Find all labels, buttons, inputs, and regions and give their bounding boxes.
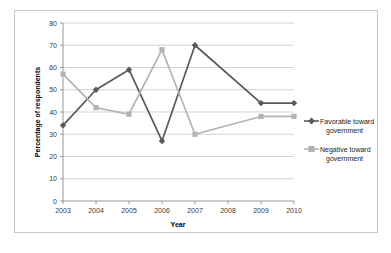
x-axis-title: Year: [171, 221, 186, 228]
data-point-marker[interactable]: [93, 105, 98, 110]
y-tick-label: 50: [49, 86, 57, 93]
x-tick-label: 2008: [220, 207, 236, 214]
y-tick-label: 10: [49, 175, 57, 182]
line-chart-svg: 01020304050607080 2003200420052006200720…: [15, 11, 379, 234]
legend-item-favorable[interactable]: Favorable toward government: [304, 118, 374, 136]
data-point-marker[interactable]: [159, 47, 164, 52]
x-tick-label: 2007: [187, 207, 203, 214]
diamond-marker-icon: [308, 118, 315, 125]
data-point-marker[interactable]: [291, 114, 296, 119]
x-axis-ticks: 20032004200520062007200820092010: [55, 201, 302, 214]
chart-legend: Favorable toward government Negative tow…: [304, 118, 374, 164]
x-tick-label: 2010: [286, 207, 302, 214]
data-point-marker[interactable]: [291, 100, 297, 106]
y-tick-label: 40: [49, 109, 57, 116]
square-marker-icon: [308, 146, 314, 152]
data-point-marker[interactable]: [192, 132, 197, 137]
legend-label-favorable-line2: government: [326, 127, 363, 135]
data-point-marker[interactable]: [126, 112, 131, 117]
x-tick-label: 2003: [55, 207, 71, 214]
y-tick-label: 60: [49, 64, 57, 71]
y-tick-label: 30: [49, 131, 57, 138]
data-point-marker[interactable]: [258, 114, 263, 119]
x-tick-label: 2004: [88, 207, 104, 214]
y-axis-ticks: 01020304050607080: [49, 20, 63, 205]
data-series-group: [60, 42, 297, 144]
data-point-marker[interactable]: [159, 138, 165, 144]
x-tick-label: 2005: [121, 207, 137, 214]
y-tick-label: 70: [49, 42, 57, 49]
legend-label-negative-line2: government: [326, 155, 363, 163]
series-line-square: [63, 50, 294, 135]
y-tick-label: 80: [49, 20, 57, 27]
x-tick-label: 2006: [154, 207, 170, 214]
data-point-marker[interactable]: [60, 72, 65, 77]
chart-container: 01020304050607080 2003200420052006200720…: [14, 10, 378, 233]
legend-label-favorable-line1: Favorable toward: [320, 118, 374, 125]
y-tick-label: 20: [49, 153, 57, 160]
y-tick-label: 0: [53, 198, 57, 205]
x-tick-label: 2009: [253, 207, 269, 214]
legend-label-negative-line1: Negative toward: [320, 146, 371, 154]
legend-item-negative[interactable]: Negative toward government: [304, 146, 371, 164]
plot-area: 01020304050607080 2003200420052006200720…: [15, 11, 379, 234]
y-axis-title: Percentage of respondents: [34, 67, 42, 157]
